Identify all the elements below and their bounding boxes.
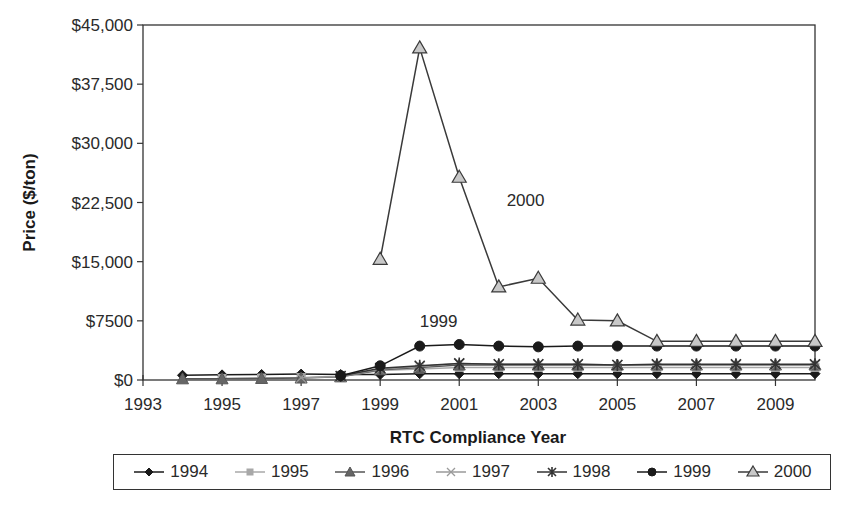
x-tick-label: 1995 [203, 395, 241, 414]
annotation-label: 2000 [507, 191, 545, 210]
circle-marker [375, 361, 385, 371]
x-tick-label: 2001 [440, 395, 478, 414]
series-2000 [373, 41, 822, 346]
x-tick-label: 2007 [677, 395, 715, 414]
circle-marker [415, 341, 425, 351]
triangle-marker [531, 271, 545, 283]
legend-item-1996: 1996 [333, 462, 409, 482]
legend-item-1995: 1995 [233, 462, 309, 482]
circle-marker [533, 342, 543, 352]
annotation-label: 1999 [420, 312, 458, 331]
legend-item-1994: 1994 [132, 462, 208, 482]
legend-swatch-icon [434, 464, 468, 480]
triangle-marker [808, 334, 822, 346]
legend-label: 1999 [673, 462, 711, 482]
circle-marker [573, 341, 583, 351]
circle-marker [336, 371, 346, 381]
line-chart: $0$7500$15,000$22,500$30,000$37,500$45,0… [0, 0, 856, 450]
legend-label: 1998 [573, 462, 611, 482]
legend-label: 1995 [271, 462, 309, 482]
y-tick-label: $22,500 [72, 194, 133, 213]
annotations: 20001999 [420, 191, 545, 331]
triangle-marker [413, 41, 427, 53]
legend-label: 1996 [371, 462, 409, 482]
triangle-marker [610, 314, 624, 326]
legend-swatch-icon [233, 464, 267, 480]
legend-item-1999: 1999 [635, 462, 711, 482]
triangle-marker [689, 334, 703, 346]
triangle-marker [452, 170, 466, 182]
plot-frame [143, 25, 815, 380]
triangle-marker [747, 466, 759, 476]
diamond-marker [145, 468, 153, 476]
legend-item-1997: 1997 [434, 462, 510, 482]
y-tick-label: $45,000 [72, 16, 133, 35]
series-line [380, 48, 815, 341]
legend: 1994199519961997199819992000 [113, 454, 831, 490]
legend-item-2000: 2000 [736, 462, 812, 482]
series-lines [177, 41, 822, 384]
x-tick-label: 1993 [124, 395, 162, 414]
circle-marker [454, 340, 464, 350]
circle-marker [612, 341, 622, 351]
series-1997 [296, 358, 820, 382]
x-tick-label: 2005 [598, 395, 636, 414]
legend-swatch-icon [132, 464, 166, 480]
y-tick-label: $15,000 [72, 253, 133, 272]
x-tick-label: 1997 [282, 395, 320, 414]
circle-marker [648, 468, 656, 476]
legend-label: 2000 [774, 462, 812, 482]
legend-item-1998: 1998 [535, 462, 611, 482]
legend-swatch-icon [333, 464, 367, 480]
legend-label: 1997 [472, 462, 510, 482]
y-tick-label: $37,500 [72, 75, 133, 94]
circle-marker [494, 341, 504, 351]
axes: $0$7500$15,000$22,500$30,000$37,500$45,0… [20, 16, 815, 447]
legend-swatch-icon [736, 464, 770, 480]
y-tick-label: $7500 [86, 312, 133, 331]
x-tick-label: 2003 [519, 395, 557, 414]
square-marker [247, 469, 253, 475]
legend-swatch-icon [635, 464, 669, 480]
x-tick-label: 2009 [757, 395, 795, 414]
x-axis-title: RTC Compliance Year [390, 428, 567, 447]
triangle-marker [729, 334, 743, 346]
y-tick-label: $0 [114, 371, 133, 390]
x-tick-label: 1999 [361, 395, 399, 414]
legend-swatch-icon [535, 464, 569, 480]
legend-label: 1994 [170, 462, 208, 482]
triangle-marker [373, 252, 387, 264]
y-tick-label: $30,000 [72, 134, 133, 153]
triangle-marker [768, 334, 782, 346]
y-axis-title: Price ($/ton) [20, 153, 39, 251]
triangle-marker [650, 334, 664, 346]
